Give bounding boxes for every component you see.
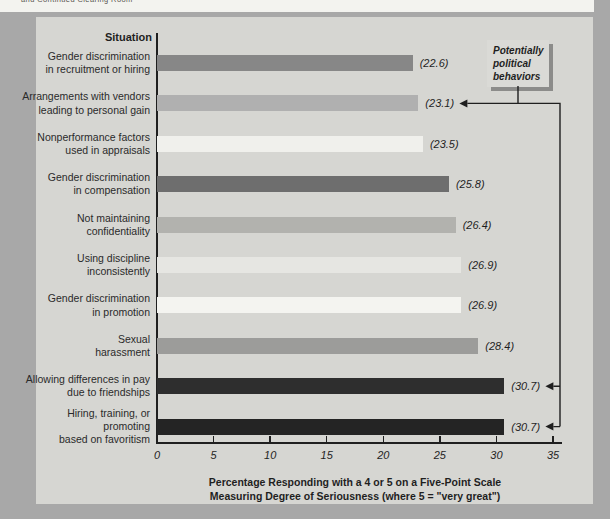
x-tick-mark [156,436,158,443]
x-tick-label: 25 [434,449,446,461]
bar [157,257,461,273]
category-label: Sexualharassment [18,333,150,359]
x-tick-label: 15 [321,449,333,461]
potentially-political-behaviors-box: Potentially political behaviors [487,40,549,87]
x-tick-mark [383,436,385,443]
bar [157,297,461,313]
bar [157,176,449,192]
x-axis-line [156,442,562,444]
value-label: (26.9) [468,299,497,311]
x-tick-label: 20 [377,449,389,461]
value-label: (26.9) [468,259,497,271]
bar [157,217,456,233]
category-label: Nonperformance factorsused in appraisals [18,131,150,157]
x-tick-mark [326,436,328,443]
arrowhead-icon [459,99,467,107]
category-label: Gender discriminationin compensation [18,171,150,197]
value-label: (23.1) [425,97,454,109]
x-axis-title-line1: Percentage Responding with a 4 or 5 on a… [157,476,553,490]
x-tick-mark [552,436,554,443]
category-label: Arrangements with vendorsleading to pers… [18,90,150,116]
callout-line1: Potentially [493,44,547,57]
x-tick-label: 30 [490,449,502,461]
value-label: (28.4) [485,340,514,352]
x-tick-mark [269,436,271,443]
x-tick-mark [213,436,215,443]
bar [157,378,504,394]
category-label: Gender discriminationin recruitment or h… [18,50,150,76]
value-label: (30.7) [511,421,540,433]
x-tick-label: 5 [211,449,217,461]
bar [157,136,423,152]
bar [157,95,418,111]
category-label: Hiring, training, or promotingbased on f… [18,407,150,447]
value-label: (30.7) [511,380,540,392]
x-tick-mark [439,436,441,443]
x-tick-label: 35 [547,449,559,461]
value-label: (26.4) [463,219,492,231]
x-tick-mark [496,436,498,443]
category-label: Gender discriminationin promotion [18,292,150,318]
x-tick-label: 0 [154,449,160,461]
value-label: (22.6) [420,57,449,69]
bar [157,55,413,71]
value-label: (25.8) [456,178,485,190]
y-axis-title: Situation [0,31,152,43]
arrowhead-icon [545,382,553,390]
figure-page: and Continued Clearing Room Situation Ge… [0,0,610,519]
bar [157,338,478,354]
category-label: Using disciplineinconsistently [18,252,150,278]
x-tick-label: 10 [264,449,276,461]
arrowhead-icon [545,423,553,431]
bar-chart: Situation Gender discriminationin recrui… [0,0,610,519]
callout-line3: behaviors [493,70,547,83]
x-axis-title-line2: Measuring Degree of Seriousness (where 5… [157,490,553,504]
bar [157,419,504,435]
value-label: (23.5) [430,138,459,150]
category-label: Not maintainingconfidentiality [18,211,150,237]
category-label: Allowing differences in paydue to friend… [18,373,150,399]
connector-line [467,86,560,427]
callout-line2: political [493,57,547,70]
x-axis-title: Percentage Responding with a 4 or 5 on a… [157,476,553,504]
